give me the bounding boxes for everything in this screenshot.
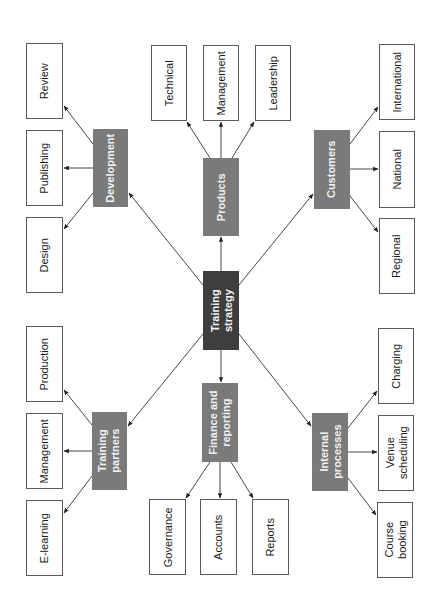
- node-label: Review: [38, 63, 51, 99]
- hub-node-finance-reporting: Finance and reporting: [202, 383, 238, 462]
- leaf-node-venue-scheduling: Venue scheduling: [378, 415, 414, 491]
- node-label: Development: [104, 133, 117, 202]
- hub-node-training-partners: Training partners: [92, 412, 127, 490]
- hub-node-products: Products: [203, 158, 239, 236]
- node-label: International: [391, 52, 404, 113]
- leaf-node-technical: Technical: [151, 45, 187, 121]
- leaf-node-regional: Regional: [379, 218, 415, 294]
- node-label: Training partners: [97, 429, 122, 473]
- leaf-node-governance: Governance: [149, 499, 186, 575]
- leaf-node-management-partners: Management: [26, 413, 63, 489]
- node-label: Regional: [391, 234, 404, 277]
- node-label: E-learning: [38, 513, 51, 563]
- arrow-connector-customers-to-regional: [350, 196, 378, 232]
- hub-node-development: Development: [93, 129, 128, 207]
- node-label: Internal processes: [317, 425, 342, 479]
- mind-map-diagram: Training strategyDevelopmentReviewPublis…: [0, 0, 437, 613]
- node-label: Design: [38, 238, 51, 272]
- node-label: Customers: [326, 141, 339, 198]
- node-label: Venue scheduling: [383, 427, 408, 480]
- node-label: Training strategy: [208, 289, 233, 332]
- arrow-connector-internal-processes-to-course-booking: [348, 478, 376, 515]
- leaf-node-charging: Charging: [378, 328, 414, 404]
- node-label: Management: [215, 51, 228, 115]
- node-label: Reports: [264, 518, 277, 557]
- node-label: National: [391, 149, 404, 189]
- node-label: Governance: [161, 507, 174, 567]
- hub-node-customers: Customers: [314, 130, 350, 209]
- leaf-node-management-products: Management: [203, 45, 239, 121]
- node-label: Management: [38, 419, 51, 483]
- node-label: Leadership: [267, 56, 280, 110]
- arrow-connector-internal-processes-to-charging: [348, 391, 377, 428]
- leaf-node-leadership: Leadership: [255, 45, 291, 121]
- node-label: Finance and reporting: [207, 390, 232, 454]
- leaf-node-design: Design: [26, 217, 63, 293]
- hub-node-internal-processes: Internal processes: [312, 413, 348, 491]
- arrow-connector-development-to-design: [64, 193, 93, 229]
- arrow-connector-training-partners-to-e-learning: [64, 476, 92, 513]
- node-label: Products: [215, 173, 228, 221]
- arrow-connector-products-to-leadership: [232, 122, 254, 158]
- center-node-training-strategy: Training strategy: [203, 271, 239, 350]
- leaf-node-accounts: Accounts: [200, 499, 237, 575]
- arrow-connector-training-strategy-to-training-partners: [128, 334, 203, 426]
- node-label: Course booking: [382, 521, 407, 560]
- leaf-node-reports: Reports: [252, 499, 289, 575]
- node-label: Publishing: [38, 143, 51, 194]
- arrow-connector-training-strategy-to-customers: [239, 194, 313, 285]
- leaf-node-course-booking: Course booking: [377, 502, 413, 578]
- arrow-connector-development-to-review: [64, 106, 93, 144]
- arrow-connector-training-strategy-to-development: [129, 193, 203, 285]
- leaf-node-production: Production: [26, 326, 63, 402]
- arrow-connector-finance-reporting-to-reports: [231, 462, 253, 498]
- node-label: Accounts: [212, 514, 225, 559]
- leaf-node-international: International: [379, 44, 415, 120]
- node-label: Technical: [163, 60, 176, 106]
- arrow-connector-customers-to-international: [350, 107, 378, 144]
- node-label: Charging: [390, 344, 403, 389]
- leaf-node-review: Review: [26, 43, 63, 119]
- node-label: Production: [38, 338, 51, 391]
- arrow-connector-training-partners-to-production: [64, 390, 92, 425]
- arrow-connector-training-strategy-to-internal-processes: [239, 334, 311, 426]
- leaf-node-publishing: Publishing: [26, 130, 63, 206]
- leaf-node-e-learning: E-learning: [26, 500, 63, 576]
- leaf-node-national: National: [379, 131, 415, 208]
- arrow-connector-finance-reporting-to-governance: [186, 462, 210, 498]
- arrow-connector-products-to-technical: [187, 122, 210, 158]
